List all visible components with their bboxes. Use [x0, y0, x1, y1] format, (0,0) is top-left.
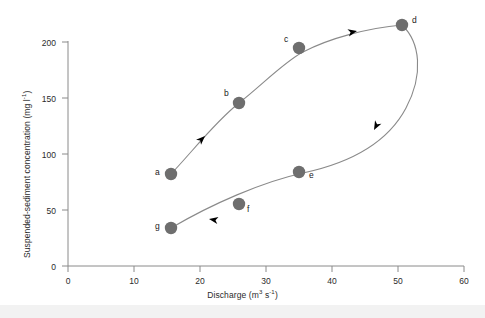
x-axis-ticks	[68, 266, 464, 272]
falling-limb-curve	[171, 25, 418, 228]
data-point-a	[165, 168, 177, 180]
x-tick-label-10: 10	[124, 276, 144, 286]
x-axis-title-close: )	[275, 290, 278, 300]
point-label-g: g	[155, 221, 160, 231]
y-tick-label-100: 100	[36, 150, 56, 160]
arrow-falling-lower	[208, 215, 218, 224]
y-axis-title-close: )	[22, 91, 32, 94]
y-axis-title-text: Suspended-sediment concentration (mg l	[22, 99, 32, 258]
point-label-f: f	[247, 204, 249, 214]
data-point-e	[293, 166, 305, 178]
y-tick-label-0: 0	[36, 262, 56, 272]
y-axis-ticks	[62, 42, 68, 266]
y-axis-title: Suspended-sediment concentration (mg l-1…	[20, 91, 32, 258]
point-label-a: a	[155, 167, 160, 177]
direction-arrows	[196, 27, 381, 224]
hysteresis-loop-plot	[0, 0, 485, 318]
arrow-falling-upper	[371, 120, 382, 131]
y-tick-label-200: 200	[36, 38, 56, 48]
x-tick-label-20: 20	[190, 276, 210, 286]
y-tick-label-150: 150	[36, 94, 56, 104]
point-label-e: e	[309, 170, 314, 180]
x-tick-label-60: 60	[454, 276, 474, 286]
x-axis-title: Discharge (m3 s-1)	[0, 288, 485, 300]
x-tick-label-0: 0	[58, 276, 78, 286]
rising-limb-curve	[171, 25, 402, 174]
data-point-b	[233, 97, 245, 109]
data-point-markers	[165, 19, 408, 234]
x-tick-label-50: 50	[388, 276, 408, 286]
y-tick-label-50: 50	[36, 206, 56, 216]
data-point-f	[233, 198, 245, 210]
point-label-b: b	[224, 88, 229, 98]
point-label-d: d	[412, 15, 417, 25]
chart-figure: 0 50 100 150 200 0 10 20 30 40 50 60 a b…	[0, 0, 485, 318]
point-label-c: c	[284, 34, 288, 44]
data-point-c	[293, 42, 305, 54]
y-axis-title-sup-1: -1	[20, 94, 27, 100]
x-axis-title-text: Discharge (m	[207, 290, 259, 300]
bottom-strip	[0, 305, 485, 318]
data-point-g	[165, 222, 177, 234]
x-tick-label-30: 30	[256, 276, 276, 286]
data-point-d	[396, 19, 408, 31]
x-tick-label-40: 40	[322, 276, 342, 286]
